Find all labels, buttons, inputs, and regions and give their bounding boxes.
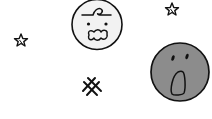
worried-face-icon bbox=[72, 0, 122, 50]
doodle-canvas bbox=[0, 0, 212, 119]
star-icon-left bbox=[15, 34, 28, 46]
surprised-face-icon bbox=[151, 43, 209, 101]
star-icon-top-right bbox=[166, 3, 179, 15]
hash-sparkle-icon bbox=[83, 78, 101, 95]
